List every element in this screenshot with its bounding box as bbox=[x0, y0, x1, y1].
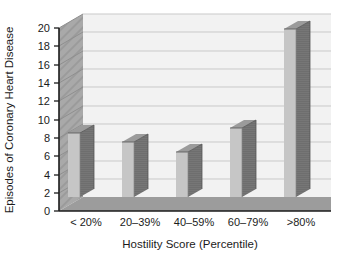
y-tick-label: 8 bbox=[44, 132, 50, 144]
y-tick-label: 18 bbox=[38, 40, 50, 52]
y-tick-label: 20 bbox=[38, 22, 50, 34]
bar-group-4 bbox=[230, 120, 256, 197]
x-tick-label: 20–39% bbox=[120, 216, 161, 228]
plot-floor bbox=[59, 197, 331, 211]
y-tick-label: 16 bbox=[38, 59, 50, 71]
y-axis-title: Episodes of Coronary Heart Disease bbox=[3, 27, 15, 214]
x-tick-label: 60–79% bbox=[228, 216, 269, 228]
x-tick-label: >80% bbox=[287, 216, 316, 228]
x-axis-title: Hostility Score (Percentile) bbox=[122, 238, 258, 250]
y-tick-label: 12 bbox=[38, 95, 50, 107]
x-tick-label: < 20% bbox=[70, 216, 102, 228]
bar-group-1 bbox=[68, 125, 94, 197]
y-tick-label: 2 bbox=[44, 187, 50, 199]
x-tick-label: 40–59% bbox=[174, 216, 215, 228]
bar-group-3 bbox=[176, 144, 202, 197]
chart-container: 0 2 4 6 8 10 12 14 16 18 20 < 20% 20–39%… bbox=[0, 0, 339, 262]
bar-group-5 bbox=[284, 21, 310, 197]
y-tick-label: 14 bbox=[38, 77, 50, 89]
y-tick-label: 6 bbox=[44, 150, 50, 162]
y-tick-label: 0 bbox=[44, 205, 50, 217]
y-tick-label: 10 bbox=[38, 114, 50, 126]
bar-chart-3d: 0 2 4 6 8 10 12 14 16 18 20 < 20% 20–39%… bbox=[0, 0, 339, 262]
y-tick-label: 4 bbox=[44, 169, 50, 181]
bar-group-2 bbox=[122, 134, 148, 197]
